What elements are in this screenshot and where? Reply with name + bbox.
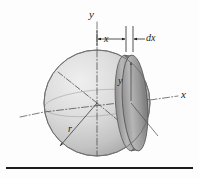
x-axis-right-outer (150, 96, 178, 100)
sphere-volume-element-diagram (0, 0, 199, 178)
figure-container: y x dx x y r (0, 0, 199, 178)
disc-radius-label: y (118, 76, 122, 86)
y-axis-label: y (89, 9, 94, 20)
dx-dimension-label: dx (146, 33, 155, 43)
sphere-radius-label: r (68, 124, 72, 134)
x-axis-label: x (181, 89, 186, 100)
x-dimension-label: x (104, 34, 108, 44)
z-axis-left-outer (20, 112, 44, 117)
